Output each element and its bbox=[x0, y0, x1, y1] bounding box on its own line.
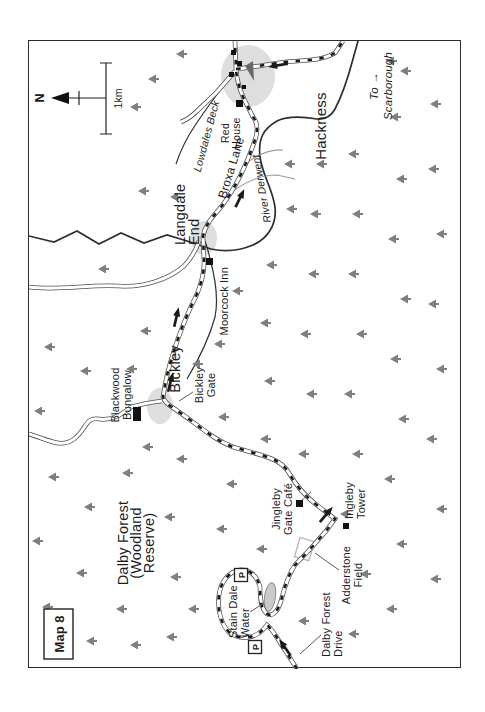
label-stain-dale-water-line: Water bbox=[239, 608, 251, 638]
scale-bar-label: 1km bbox=[112, 88, 124, 108]
conifer-tree-icon bbox=[356, 329, 367, 338]
label-dalby-forest-title-line: Reserve) bbox=[141, 513, 157, 573]
map-number-group: Map 8 bbox=[44, 609, 73, 659]
conifer-tree-icon bbox=[436, 504, 447, 513]
conifer-tree-icon bbox=[76, 568, 87, 577]
label-leader-line bbox=[179, 392, 193, 401]
conifer-tree-icon bbox=[44, 342, 55, 351]
conifer-tree-icon bbox=[232, 286, 243, 295]
conifer-tree-icon bbox=[188, 604, 199, 613]
label-adderstone-field-line: Adderstone bbox=[340, 546, 352, 604]
label-hackness: Hackness bbox=[312, 92, 329, 159]
label-moorcock-inn: Moorcock Inn bbox=[218, 267, 230, 335]
conifer-tree-icon bbox=[130, 640, 141, 649]
conifer-tree-icon bbox=[298, 449, 309, 458]
conifer-tree-icon bbox=[390, 354, 401, 363]
conifer-tree-icon bbox=[80, 366, 91, 375]
building-marker bbox=[229, 72, 234, 77]
label-stain-dale-water: Stain DaleWater bbox=[227, 585, 251, 638]
label-ingleby-tower-line: Ingleby bbox=[343, 482, 355, 519]
label-ingleby-tower: InglebyTower bbox=[343, 482, 367, 519]
label-stain-dale-water-line: Stain Dale bbox=[227, 585, 239, 638]
conifer-tree-icon bbox=[176, 49, 187, 58]
conifer-tree-icon bbox=[284, 159, 295, 168]
label-blackwood-bungalow-line: Blackwood bbox=[109, 368, 121, 423]
conifer-tree-icon bbox=[308, 269, 319, 278]
label-jingleby-gate-cafe: JinglebyGate Café bbox=[270, 483, 294, 535]
water-layer bbox=[29, 41, 358, 612]
conifer-tree-icon bbox=[316, 159, 327, 168]
label-adderstone-field-line: Field bbox=[352, 563, 364, 588]
conifer-tree-icon bbox=[214, 339, 225, 348]
conifer-tree-icon bbox=[436, 229, 447, 238]
conifer-tree-icon bbox=[300, 329, 311, 338]
conifer-tree-icon bbox=[348, 269, 359, 278]
conifer-tree-icon bbox=[98, 264, 109, 273]
label-bickley: Bickley bbox=[167, 345, 183, 393]
building-marker bbox=[231, 50, 236, 55]
conifer-tree-icon bbox=[298, 616, 309, 625]
building-marker bbox=[343, 523, 349, 529]
road-casing bbox=[29, 401, 162, 443]
conifer-tree-icon bbox=[260, 318, 271, 327]
conifer-tree-icon bbox=[116, 604, 127, 613]
conifer-tree-icon bbox=[148, 74, 159, 83]
label-blackwood-bungalow: BlackwoodBungalow bbox=[109, 368, 133, 423]
conifer-tree-icon bbox=[426, 434, 437, 443]
conifer-tree-icon bbox=[170, 572, 181, 581]
route-direction-arrow bbox=[171, 306, 183, 327]
building-marker bbox=[133, 407, 141, 421]
label-red-house: RedHouse bbox=[219, 117, 242, 148]
conifer-tree-icon bbox=[122, 468, 133, 477]
conifer-tree-icon bbox=[386, 604, 397, 613]
label-bickley-gate-line: Gate bbox=[205, 373, 217, 398]
label-langdale-end: LangdaleEnd bbox=[172, 184, 202, 245]
label-red-house-line: House bbox=[230, 117, 242, 148]
conifer-tree-icon bbox=[256, 544, 267, 553]
conifer-tree-icon bbox=[34, 406, 45, 415]
label-ingleby-tower-line: Tower bbox=[355, 489, 367, 519]
label-dalby-forest-drive-line: Drive bbox=[332, 630, 344, 657]
roads-layer bbox=[29, 41, 343, 669]
conifer-tree-icon bbox=[226, 479, 237, 488]
label-langdale-end-line: End bbox=[186, 219, 202, 245]
label-bickley-gate-line: Bickley bbox=[193, 367, 205, 404]
conifer-tree-icon bbox=[436, 364, 447, 373]
conifer-tree-icon bbox=[344, 389, 355, 398]
road-surface bbox=[29, 241, 199, 288]
north-and-scale-group: N1km bbox=[33, 63, 124, 134]
label-jingleby-gate-cafe-line: Gate Café bbox=[282, 483, 294, 535]
label-leader-line bbox=[315, 553, 339, 570]
conifer-tree-icon bbox=[348, 149, 359, 158]
label-dalby-forest-drive-line: Dalby Forest bbox=[320, 592, 332, 657]
label-bickley-gate: BickleyGate bbox=[193, 367, 217, 404]
conifer-tree-icon bbox=[396, 539, 407, 548]
conifer-tree-icon bbox=[286, 204, 297, 213]
building-marker bbox=[236, 100, 243, 107]
conifer-tree-icon bbox=[48, 472, 59, 481]
label-leader-line bbox=[300, 635, 321, 654]
label-moorcock-inn-line: Moorcock Inn bbox=[218, 267, 230, 335]
conifer-tree-icon bbox=[400, 66, 411, 75]
conifer-tree-icon bbox=[398, 414, 409, 423]
label-to-scarborough: To →Scarborough bbox=[368, 52, 394, 120]
conifer-tree-icon bbox=[140, 326, 151, 335]
conifer-tree-icon bbox=[428, 299, 439, 308]
label-hackness-line: Hackness bbox=[312, 92, 329, 159]
building-marker bbox=[206, 258, 213, 265]
conifer-tree-icon bbox=[176, 454, 187, 463]
conifer-tree-icon bbox=[266, 260, 277, 269]
building-marker bbox=[237, 61, 242, 66]
conifer-tree-icon bbox=[428, 164, 439, 173]
label-blackwood-bungalow-line: Bungalow bbox=[121, 370, 133, 420]
scanned-map-page: { "page": { "map_label": "Map 8" }, "com… bbox=[0, 0, 485, 712]
map-canvas: PPN1kmMap 8Dalby Forest(WoodlandReserve)… bbox=[29, 41, 463, 669]
conifer-tree-icon bbox=[138, 186, 149, 195]
conifer-tree-icon bbox=[216, 524, 227, 533]
label-jingleby-gate-cafe-line: Jingleby bbox=[270, 488, 282, 530]
road-casing bbox=[29, 241, 199, 288]
conifer-tree-icon bbox=[430, 99, 441, 108]
conifer-tree-icon bbox=[164, 512, 175, 521]
conifer-tree-icon bbox=[166, 632, 177, 641]
conifer-tree-icon bbox=[388, 234, 399, 243]
